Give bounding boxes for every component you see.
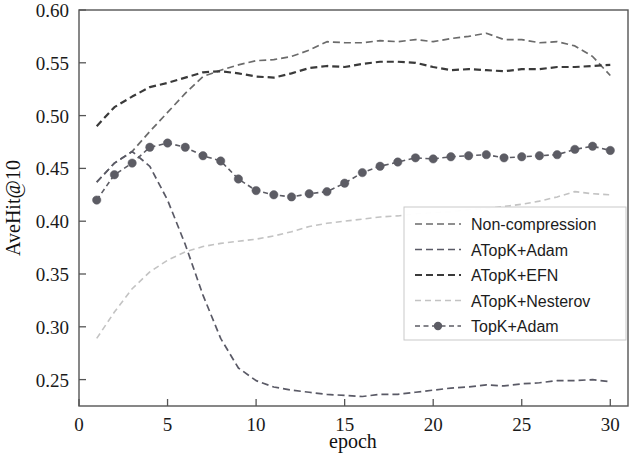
- data-point-marker: [181, 143, 189, 151]
- y-tick-label-0.40: 0.40: [36, 211, 69, 232]
- legend-label-atopk-nesterov: ATopK+Nesterov: [471, 293, 590, 310]
- chart-figure: 051015202530 0.250.300.350.400.450.500.5…: [0, 0, 639, 455]
- x-tick-label-0: 0: [74, 414, 84, 435]
- data-point-marker: [323, 187, 331, 195]
- x-tick-label-25: 25: [512, 414, 531, 435]
- data-point-marker: [376, 162, 384, 170]
- y-tick-label-0.50: 0.50: [36, 106, 69, 127]
- x-tick-label-10: 10: [247, 414, 266, 435]
- data-point-marker: [482, 150, 490, 158]
- legend-label-atopk-efn: ATopK+EFN: [471, 267, 558, 284]
- x-axis-title: epoch: [329, 430, 377, 453]
- data-point-marker: [305, 190, 313, 198]
- data-point-marker: [411, 154, 419, 162]
- legend-label-atopk-adam: ATopK+Adam: [471, 242, 568, 259]
- data-point-marker: [358, 168, 366, 176]
- data-point-marker: [216, 157, 224, 165]
- data-point-marker: [146, 143, 154, 151]
- x-tick-label-20: 20: [424, 414, 443, 435]
- data-point-marker: [571, 145, 579, 153]
- legend-swatch-marker: [434, 322, 442, 330]
- data-point-marker: [287, 193, 295, 201]
- data-point-marker: [110, 171, 118, 179]
- data-point-marker: [553, 150, 561, 158]
- y-tick-label-0.55: 0.55: [36, 53, 69, 74]
- data-point-marker: [128, 159, 136, 167]
- chart-legend[interactable]: Non-compressionATopK+AdamATopK+EFNATopK+…: [404, 207, 626, 340]
- data-point-marker: [518, 153, 526, 161]
- chart-canvas: 051015202530 0.250.300.350.400.450.500.5…: [0, 0, 639, 455]
- data-point-marker: [270, 191, 278, 199]
- legend-label-topk-adam: TopK+Adam: [471, 318, 559, 335]
- y-tick-label-0.25: 0.25: [36, 370, 69, 391]
- data-point-marker: [199, 152, 207, 160]
- data-point-marker: [447, 153, 455, 161]
- data-point-marker: [163, 139, 171, 147]
- y-tick-label-0.45: 0.45: [36, 158, 69, 179]
- data-point-marker: [429, 155, 437, 163]
- x-tick-label-30: 30: [601, 414, 620, 435]
- x-tick-label-5: 5: [163, 414, 173, 435]
- data-point-marker: [588, 142, 596, 150]
- data-point-marker: [394, 158, 402, 166]
- data-point-marker: [93, 196, 101, 204]
- y-tick-label-0.30: 0.30: [36, 317, 69, 338]
- data-point-marker: [252, 186, 260, 194]
- y-tick-label-0.60: 0.60: [36, 0, 69, 21]
- data-point-marker: [606, 146, 614, 154]
- data-point-marker: [535, 152, 543, 160]
- data-point-marker: [340, 179, 348, 187]
- data-point-marker: [500, 154, 508, 162]
- y-axis-title: AveHit@10: [2, 160, 25, 256]
- legend-label-non-compression: Non-compression: [471, 216, 596, 233]
- data-point-marker: [464, 152, 472, 160]
- data-point-marker: [234, 175, 242, 183]
- y-tick-label-0.35: 0.35: [36, 264, 69, 285]
